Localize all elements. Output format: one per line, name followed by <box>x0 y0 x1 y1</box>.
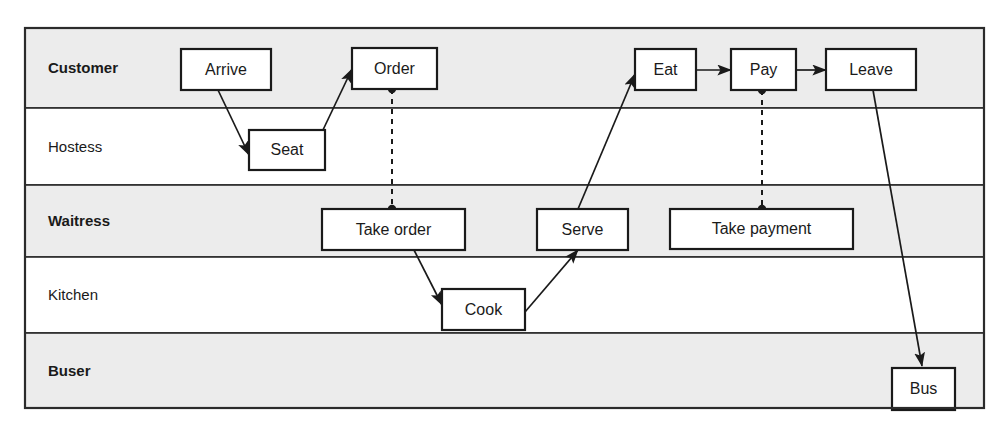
node-label-bus: Bus <box>910 380 938 397</box>
lane-label-buser: Buser <box>48 362 91 379</box>
lane-label-hostess: Hostess <box>48 138 102 155</box>
node-label-serve: Serve <box>562 221 604 238</box>
node-seat[interactable]: Seat <box>249 130 325 170</box>
node-label-arrive: Arrive <box>205 61 247 78</box>
node-label-order: Order <box>374 60 416 77</box>
node-bus[interactable]: Bus <box>892 368 955 410</box>
node-label-eat: Eat <box>653 61 678 78</box>
node-pay[interactable]: Pay <box>731 49 796 90</box>
node-take-order[interactable]: Take order <box>322 209 465 250</box>
node-label-take-order: Take order <box>356 221 432 238</box>
lane-label-customer: Customer <box>48 59 118 76</box>
lane-label-kitchen: Kitchen <box>48 286 98 303</box>
node-serve[interactable]: Serve <box>537 209 628 250</box>
swimlane-diagram-canvas: CustomerHostessWaitressKitchenBuser Arri… <box>0 0 1006 445</box>
node-label-seat: Seat <box>271 141 304 158</box>
node-arrive[interactable]: Arrive <box>181 49 271 90</box>
node-label-pay: Pay <box>750 61 778 78</box>
node-label-leave: Leave <box>849 61 893 78</box>
swimlane-diagram: CustomerHostessWaitressKitchenBuser Arri… <box>0 0 1006 445</box>
node-take-payment[interactable]: Take payment <box>670 209 853 249</box>
node-cook[interactable]: Cook <box>442 289 525 330</box>
node-label-take-payment: Take payment <box>712 220 812 237</box>
node-eat[interactable]: Eat <box>635 49 696 90</box>
lane-hostess <box>25 108 984 185</box>
node-order[interactable]: Order <box>352 48 437 89</box>
lane-buser <box>25 333 984 408</box>
node-label-cook: Cook <box>465 301 503 318</box>
lane-label-waitress: Waitress <box>48 212 110 229</box>
node-leave[interactable]: Leave <box>826 49 916 90</box>
